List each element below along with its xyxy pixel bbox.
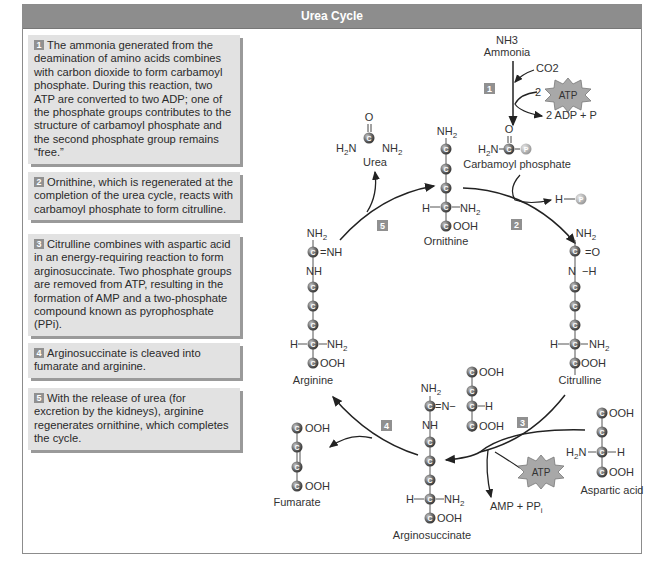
svg-text:OOH: OOH (479, 366, 504, 378)
svg-text:OOH: OOH (453, 220, 478, 232)
svg-text:NH2: NH2 (327, 338, 348, 353)
urea: O H2N NH2 Urea (336, 111, 403, 168)
svg-text:1: 1 (487, 84, 492, 94)
citrulline: NH2 =O N−H H NH2 OOH Citrulline (550, 227, 610, 386)
svg-text:NH2: NH2 (576, 227, 597, 242)
arginine: NH2 =NH NH H NH2 OOH Arginine (290, 227, 348, 386)
amp-ppi-products: AMP + PPi (490, 500, 543, 515)
svg-text:H2N: H2N (478, 143, 498, 158)
svg-text:Arginine: Arginine (293, 374, 333, 386)
svg-text:Carbamoyl phosphate: Carbamoyl phosphate (463, 158, 571, 170)
svg-text:NH2: NH2 (589, 338, 610, 353)
svg-text:2: 2 (535, 86, 541, 98)
svg-text:Arginosuccinate: Arginosuccinate (393, 529, 471, 541)
svg-text:H2N: H2N (336, 142, 356, 157)
svg-text:4: 4 (384, 421, 389, 431)
svg-text:=NH: =NH (320, 246, 342, 258)
svg-text:ATP: ATP (532, 467, 551, 478)
svg-text:NH2: NH2 (421, 382, 442, 397)
svg-text:NH2: NH2 (444, 493, 465, 508)
svg-text:OOH: OOH (320, 357, 345, 369)
svg-text:NH2: NH2 (382, 142, 403, 157)
svg-text:2: 2 (514, 220, 519, 230)
co2-label: CO2 (536, 62, 559, 74)
svg-text:OOH: OOH (437, 512, 462, 524)
svg-text:Ammonia: Ammonia (484, 46, 531, 58)
svg-text:NH2: NH2 (460, 202, 481, 217)
svg-text:O: O (365, 111, 374, 123)
svg-text:NH3: NH3 (496, 34, 518, 46)
svg-text:5: 5 (380, 221, 385, 231)
svg-text:Citrulline: Citrulline (559, 374, 602, 386)
svg-text:ATP: ATP (559, 90, 578, 101)
svg-text:=N−: =N− (435, 400, 456, 412)
svg-text:NH: NH (306, 265, 322, 277)
svg-text:OOH: OOH (581, 357, 606, 369)
svg-text:OOH: OOH (305, 422, 330, 434)
svg-text:−H: −H (582, 265, 596, 277)
svg-text:H2N: H2N (566, 446, 586, 461)
aspartic-acid: OOH H2N H OOH Aspartic acid (566, 407, 643, 496)
svg-text:NH: NH (422, 419, 438, 431)
adp-products: 2 ADP + P (546, 109, 597, 121)
svg-text:H: H (550, 338, 558, 350)
svg-text:Fumarate: Fumarate (273, 496, 320, 508)
svg-text:NH2: NH2 (437, 125, 458, 140)
svg-text:N: N (568, 265, 576, 277)
svg-text:H: H (406, 493, 414, 505)
svg-text:Ornithine: Ornithine (424, 235, 469, 247)
svg-text:Urea: Urea (363, 156, 388, 168)
svg-text:OOH: OOH (609, 466, 634, 478)
svg-text:H: H (485, 400, 493, 412)
fumarate: OOH OOH Fumarate (273, 422, 330, 508)
svg-text:OOH: OOH (609, 407, 634, 419)
svg-text:Aspartic acid: Aspartic acid (581, 484, 644, 496)
carbamoyl-phosphate: O H2N Carbamoyl phosphate (463, 123, 571, 170)
free-phosphate: H (555, 193, 563, 205)
svg-text:H: H (290, 338, 298, 350)
svg-text:3: 3 (520, 418, 525, 428)
svg-text:NH2: NH2 (307, 227, 328, 242)
svg-text:OOH: OOH (479, 420, 504, 432)
svg-text:=O: =O (585, 246, 600, 258)
cycle-diagram: C P NH3 Ammonia CO2 1 2 ATP 2 ADP + P O … (0, 0, 653, 566)
svg-text:H: H (617, 446, 625, 458)
ammonia: NH3 Ammonia (484, 34, 531, 58)
svg-text:O: O (505, 123, 514, 135)
svg-text:OOH: OOH (305, 480, 330, 492)
svg-text:H: H (422, 202, 430, 214)
